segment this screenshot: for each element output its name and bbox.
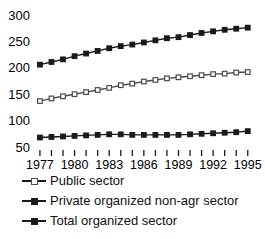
series-line (40, 28, 248, 65)
data-point-marker (84, 133, 89, 138)
data-point-marker (118, 44, 123, 49)
legend-label: Total organized sector (50, 214, 177, 228)
data-point-marker (222, 27, 227, 32)
data-point-marker (165, 133, 170, 138)
data-point-marker (165, 76, 170, 81)
x-tick-label: 1986 (130, 158, 158, 172)
data-point-marker (188, 74, 193, 79)
y-tick-label: 300 (8, 8, 30, 23)
data-point-marker (118, 83, 123, 88)
data-point-marker (38, 135, 43, 140)
legend-marker-filled-square-icon (22, 194, 46, 208)
data-point-marker (118, 132, 123, 137)
legend-label: Public sector (50, 174, 124, 188)
y-tick-label: 200 (8, 60, 30, 75)
data-point-marker (234, 70, 239, 75)
data-point-marker (107, 132, 112, 137)
line-chart: 50100150200250300 1977198019831986198919… (0, 0, 265, 239)
legend-marker-open-square-icon (22, 174, 46, 188)
data-point-marker (222, 71, 227, 76)
data-point-marker (95, 88, 100, 93)
x-tick-label: 1983 (95, 158, 123, 172)
data-point-marker (95, 133, 100, 138)
legend-label: Private organized non-agr sector (50, 194, 239, 208)
x-tick-label: 1977 (26, 158, 54, 172)
x-tick-label: 1980 (61, 158, 89, 172)
data-point-marker (211, 131, 216, 136)
data-point-marker (188, 132, 193, 137)
data-point-marker (130, 42, 135, 47)
legend-marker-filled-square-icon (22, 214, 46, 228)
y-tick-label: 250 (8, 34, 30, 49)
series-public-sector (38, 70, 250, 104)
data-point-marker (84, 90, 89, 95)
data-point-marker (130, 133, 135, 138)
data-point-marker (49, 96, 54, 101)
data-point-marker (176, 35, 181, 40)
chart-legend: Public sector Private organized non-agr … (22, 171, 262, 231)
data-point-marker (49, 135, 54, 140)
data-point-marker (72, 92, 77, 97)
data-point-marker (61, 134, 66, 139)
y-axis-tick-labels: 50100150200250300 (8, 8, 30, 155)
data-point-marker (245, 25, 250, 30)
series-private-organized-non-agr-sector (38, 129, 250, 140)
series-line (40, 72, 248, 101)
x-tick-label: 1992 (199, 158, 227, 172)
data-point-marker (49, 60, 54, 65)
legend-item-public-sector[interactable]: Public sector (22, 171, 262, 191)
data-point-marker (176, 133, 181, 138)
data-point-marker (153, 78, 158, 83)
data-point-marker (165, 36, 170, 41)
data-point-marker (188, 33, 193, 38)
data-point-marker (84, 51, 89, 56)
data-point-marker (234, 130, 239, 135)
data-point-marker (107, 86, 112, 91)
data-point-marker (72, 134, 77, 139)
data-point-marker (199, 73, 204, 78)
series-total-organized-sector (38, 25, 250, 67)
data-point-marker (72, 54, 77, 59)
y-tick-label: 100 (8, 113, 30, 128)
data-point-marker (234, 26, 239, 31)
data-point-marker (142, 133, 147, 138)
data-point-marker (130, 81, 135, 86)
data-point-marker (142, 79, 147, 84)
data-point-marker (245, 70, 250, 75)
data-point-marker (38, 62, 43, 67)
y-tick-label: 50 (16, 140, 30, 155)
data-point-marker (61, 94, 66, 99)
data-point-marker (95, 49, 100, 54)
data-point-marker (107, 46, 112, 51)
data-point-marker (211, 72, 216, 77)
x-tick-label: 1995 (234, 158, 262, 172)
data-point-marker (199, 31, 204, 36)
data-point-marker (38, 99, 43, 104)
data-point-marker (211, 29, 216, 34)
data-point-marker (222, 130, 227, 135)
x-axis-tick-marks (40, 150, 248, 156)
data-series-group (38, 25, 250, 139)
data-point-marker (176, 75, 181, 80)
y-tick-label: 150 (8, 87, 30, 102)
legend-item-private-organized-non-agr-sector[interactable]: Private organized non-agr sector (22, 191, 262, 211)
data-point-marker (61, 57, 66, 62)
data-point-marker (153, 133, 158, 138)
data-point-marker (153, 38, 158, 43)
data-point-marker (199, 132, 204, 137)
x-axis-tick-labels: 1977198019831986198919921995 (26, 158, 262, 172)
data-point-marker (245, 129, 250, 134)
data-point-marker (142, 40, 147, 45)
legend-item-total-organized-sector[interactable]: Total organized sector (22, 211, 262, 231)
x-tick-label: 1989 (165, 158, 193, 172)
